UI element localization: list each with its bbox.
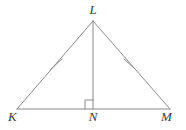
- vertex-label-M: M: [161, 110, 172, 123]
- triangle-sides: [17, 21, 170, 109]
- vertex-label-K: K: [8, 110, 17, 123]
- right-angle-square-path: [85, 100, 93, 109]
- vertex-label-N: N: [89, 110, 98, 123]
- geometry-figure: L K N M: [0, 0, 186, 130]
- vertex-label-L: L: [89, 3, 96, 16]
- segment-LM: [93, 21, 170, 109]
- tick-mark-LM-icon: [124, 59, 135, 69]
- tick-mark-KL-icon: [51, 59, 62, 69]
- right-angle-marker-icon: [85, 100, 93, 109]
